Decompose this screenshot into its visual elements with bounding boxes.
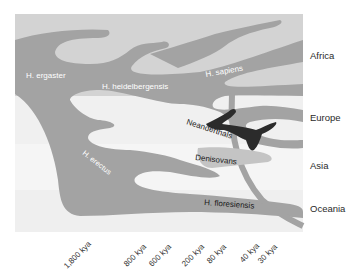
region-label-europe: Europe — [310, 112, 341, 123]
region-label-oceania: Oceania — [310, 203, 345, 214]
region-label-asia: Asia — [310, 160, 328, 171]
phylogeny-diagram: H. ergaster H. heidelbergensis H. sapien… — [0, 0, 357, 280]
label-heidelbergensis: H. heidelbergensis — [102, 82, 168, 91]
region-label-africa: Africa — [310, 50, 334, 61]
label-ergaster: H. ergaster — [26, 71, 66, 80]
